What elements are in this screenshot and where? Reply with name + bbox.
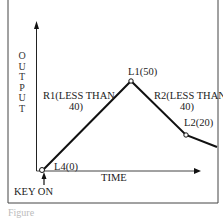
y-axis-arrow-icon xyxy=(34,21,39,29)
key-on-arrow-icon xyxy=(42,172,47,179)
point-label-l4: L4(0) xyxy=(54,161,78,172)
point-marker-l1 xyxy=(129,79,133,83)
segment-label-r2: R2(LESS THAN 40) xyxy=(154,90,220,112)
envelope-diagram: OUTPUT R1(LESS THAN 40) L1(50) R2(LESS T… xyxy=(0,0,223,219)
x-axis-arrow-icon xyxy=(194,168,201,174)
figure-caption: Figure xyxy=(8,207,34,218)
y-axis-label-text: OUTPUT xyxy=(18,51,26,114)
key-on-label: KEY ON xyxy=(14,186,53,197)
point-marker-l4 xyxy=(40,168,45,173)
segment-label-r2-line1: R2(LESS THAN xyxy=(154,90,220,101)
point-marker-l2 xyxy=(184,133,188,137)
point-label-l1: L1(50) xyxy=(128,66,157,77)
segment-label-r2-line2: 40) xyxy=(154,101,220,112)
point-label-l2: L2(20) xyxy=(184,117,213,128)
segment-label-r1-line2: 40) xyxy=(43,101,109,112)
y-axis-label: OUTPUT xyxy=(17,51,27,114)
segment-label-r1-line1: R1(LESS THAN xyxy=(43,90,109,101)
x-axis-label: TIME xyxy=(101,172,127,183)
segment-label-r1: R1(LESS THAN 40) xyxy=(43,90,109,112)
